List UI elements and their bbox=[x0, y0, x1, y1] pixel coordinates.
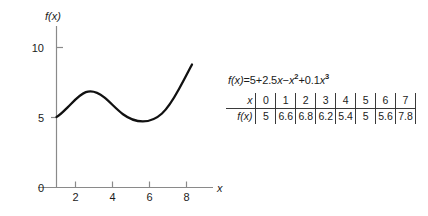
table-cell-x-6: 6 bbox=[376, 93, 396, 109]
table-cell-fx-5: 5 bbox=[356, 109, 376, 125]
y-axis-label: f(x) bbox=[45, 10, 61, 22]
table-cell-fx-3: 6.2 bbox=[316, 109, 336, 125]
table-cell-x-7: 7 bbox=[395, 93, 415, 109]
equation-eq: =5+2.5 bbox=[243, 74, 277, 86]
table-cell-x-4: 4 bbox=[336, 93, 356, 109]
table-cell-x-3: 3 bbox=[316, 93, 336, 109]
table-cell-x-1: 1 bbox=[276, 93, 296, 109]
equation-lhs: f(x) bbox=[228, 74, 243, 86]
function-value-table: x 0 1 2 3 4 5 6 7 f(x) 5 6.6 6.8 6.2 5.4 bbox=[226, 93, 416, 124]
x-ticklabel-2: 2 bbox=[72, 191, 78, 203]
table-row-fx: f(x) 5 6.6 6.8 6.2 5.4 5 5.6 7.8 bbox=[226, 109, 416, 125]
table-cell-x-0: 0 bbox=[256, 93, 276, 109]
function-curve bbox=[57, 65, 193, 122]
function-equation: f(x)=5+2.5x−x2+0.1x3 bbox=[226, 74, 416, 86]
x-ticklabel-4: 4 bbox=[109, 191, 115, 203]
table-row-x: x 0 1 2 3 4 5 6 7 bbox=[226, 93, 416, 109]
y-ticklabel-5: 5 bbox=[38, 112, 44, 124]
table-cell-fx-4: 5.4 bbox=[336, 109, 356, 125]
equation-plus: +0.1 bbox=[298, 74, 319, 86]
table-cell-fx-7: 7.8 bbox=[395, 109, 415, 125]
equation-and-table-panel: f(x)=5+2.5x−x2+0.1x3 x 0 1 2 3 4 5 6 7 f… bbox=[226, 74, 416, 124]
x-ticklabel-8: 8 bbox=[183, 191, 189, 203]
table-cell-fx-0: 5 bbox=[256, 109, 276, 125]
table-row-label-x: x bbox=[226, 93, 256, 109]
table-row-label-fx: f(x) bbox=[226, 109, 256, 125]
table-cell-fx-6: 5.6 bbox=[376, 109, 396, 125]
equation-term3-exponent: 3 bbox=[325, 72, 329, 81]
x-axis-label: x bbox=[216, 182, 223, 194]
figure-container: 10 5 0 2 4 6 8 f(x) x f(x)=5+2.5x−x2+0.1… bbox=[0, 0, 428, 216]
y-ticklabel-10: 10 bbox=[32, 42, 44, 54]
table-cell-fx-1: 6.6 bbox=[276, 109, 296, 125]
table-cell-x-5: 5 bbox=[356, 93, 376, 109]
table-cell-x-2: 2 bbox=[296, 93, 316, 109]
x-ticklabel-6: 6 bbox=[146, 191, 152, 203]
y-ticklabel-0: 0 bbox=[38, 182, 44, 194]
table-cell-fx-2: 6.8 bbox=[296, 109, 316, 125]
